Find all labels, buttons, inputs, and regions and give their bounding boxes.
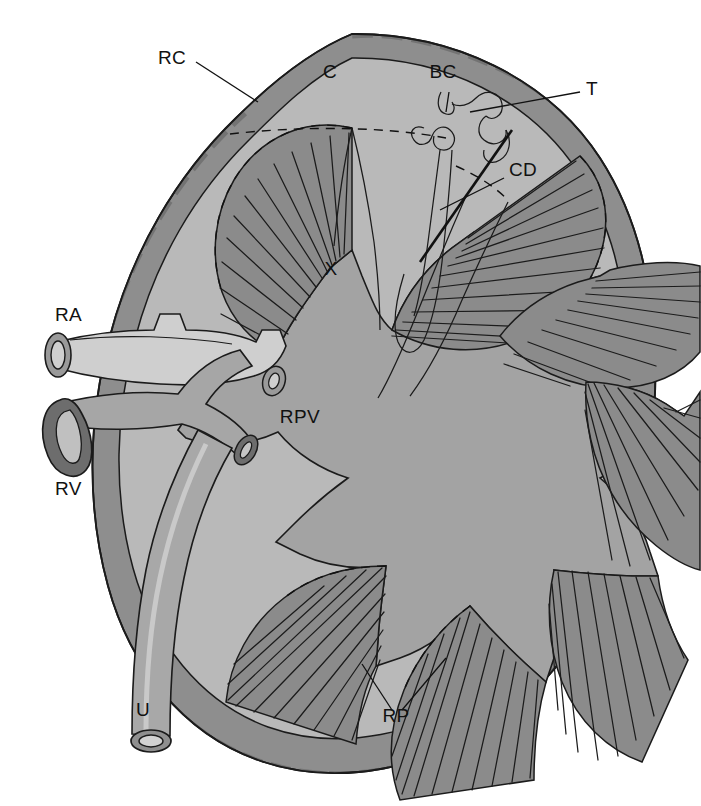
label-BC: BC: [429, 61, 456, 82]
leader-RC: [196, 62, 258, 102]
label-CD: CD: [509, 159, 537, 180]
label-U: U: [136, 699, 150, 720]
label-T: T: [586, 78, 598, 99]
label-X: X: [324, 258, 337, 279]
label-C: C: [323, 61, 337, 82]
kidney-diagram-figure: RPV: [0, 0, 701, 806]
label-RPV: RPV: [280, 406, 320, 427]
kidney-section-illustration: RPV: [0, 0, 701, 806]
renal-pyramid: [549, 570, 688, 762]
label-RC: RC: [158, 47, 186, 68]
label-RA: RA: [55, 304, 82, 325]
label-RP: RP: [382, 705, 409, 726]
label-RV: RV: [55, 478, 82, 499]
